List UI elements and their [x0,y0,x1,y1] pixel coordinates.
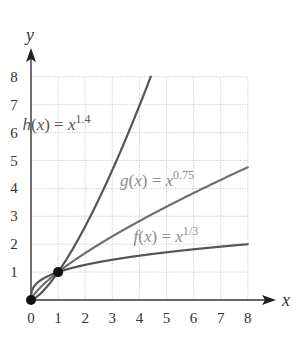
y-tick-label: 6 [10,125,18,141]
curve-label-g: g(x) = x0.75 [120,168,194,190]
x-tick-label: 4 [136,310,144,326]
x-axis-label: x [281,290,290,310]
x-tick-label: 6 [190,310,198,326]
x-tick-label: 8 [244,310,252,326]
y-tick-label: 3 [10,208,18,224]
x-tick-label: 0 [27,310,35,326]
curve-label-f: f(x) = x1/3 [134,224,199,246]
x-tick-label: 3 [109,310,117,326]
x-tick-label: 5 [163,310,171,326]
x-tick-label: 1 [54,310,62,326]
marked-point [53,267,63,277]
y-tick-label: 7 [10,97,18,113]
y-tick-label: 2 [10,236,18,252]
power-functions-chart: 01234567812345678 h(x) = x1.4g(x) = x0.7… [0,0,299,338]
y-axis-label: y [24,25,34,45]
x-tick-label: 2 [81,310,89,326]
y-tick-label: 8 [10,69,18,85]
marked-point [26,295,36,305]
y-tick-label: 1 [10,264,18,280]
y-tick-label: 5 [10,153,18,169]
curve-label-h: h(x) = x1.4 [22,112,90,134]
x-tick-label: 7 [217,310,225,326]
y-tick-label: 4 [10,180,18,196]
